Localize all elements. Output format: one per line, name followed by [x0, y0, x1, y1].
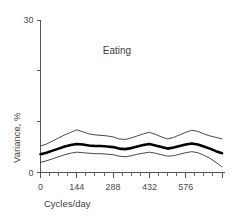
y-axis-tick-label: 0 [28, 168, 33, 178]
x-axis-tick-label: 288 [106, 182, 121, 192]
data-series-layer [41, 130, 223, 167]
x-axis-tick-labels: 0144288432576 [38, 182, 193, 192]
x-axis-tick-label: 0 [38, 182, 43, 192]
chart-canvas: 030 0144288432576 Cycles/day Variance, %… [0, 0, 233, 221]
y-axis-title: Variance, % [11, 112, 22, 163]
x-axis-tick-label: 576 [178, 182, 193, 192]
y-axis-tick-label: 30 [23, 15, 33, 25]
chart-title: Eating [103, 45, 131, 56]
x-axis-title: Cycles/day [44, 198, 91, 209]
axes [40, 20, 225, 173]
series-lower-confidence-bound [41, 152, 223, 167]
x-axis-tick-label: 144 [69, 182, 84, 192]
x-axis-tick-label: 432 [142, 182, 157, 192]
y-axis-ticks [37, 20, 41, 173]
y-axis-tick-labels: 030 [23, 15, 33, 178]
chart-figure: 030 0144288432576 Cycles/day Variance, %… [0, 0, 233, 221]
